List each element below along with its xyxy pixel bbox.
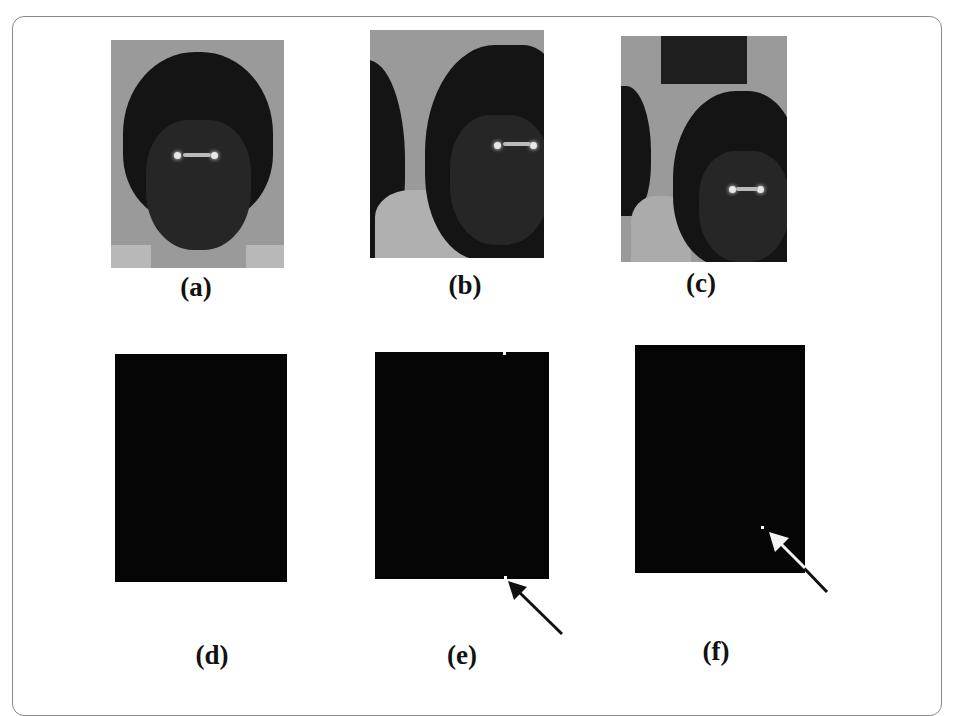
panel-e-image <box>375 352 549 579</box>
panel-b-image <box>370 30 544 258</box>
panel-c-label: (c) <box>686 268 716 299</box>
glasses-glint <box>494 142 501 149</box>
glasses-bridge <box>183 153 211 157</box>
face-shape <box>699 151 787 262</box>
face-shape <box>450 115 544 245</box>
panel-e-label: (e) <box>447 640 477 671</box>
shirt-shape <box>111 245 151 268</box>
panel-a-label: (a) <box>180 272 211 303</box>
glasses-bridge <box>503 142 531 146</box>
hair-block-shape <box>661 36 747 84</box>
shirt-shape <box>246 245 284 268</box>
glasses-glint <box>530 142 537 149</box>
glasses-bridge <box>736 187 758 191</box>
glasses-glint <box>729 186 736 193</box>
glasses-glint <box>174 152 181 159</box>
glasses-glint <box>757 186 764 193</box>
glasses-glint <box>211 152 218 159</box>
face-shape <box>146 120 251 250</box>
panel-b-label: (b) <box>449 270 482 301</box>
panel-f-label: (f) <box>703 636 730 667</box>
marker-dot <box>761 526 764 529</box>
panel-d-image <box>115 354 287 582</box>
panel-a-image <box>111 40 284 268</box>
arrow-icon <box>765 528 830 596</box>
marker-dot <box>503 352 506 355</box>
arrow-icon <box>505 578 565 638</box>
panel-c-image <box>621 36 787 262</box>
panel-d-label: (d) <box>196 640 229 671</box>
